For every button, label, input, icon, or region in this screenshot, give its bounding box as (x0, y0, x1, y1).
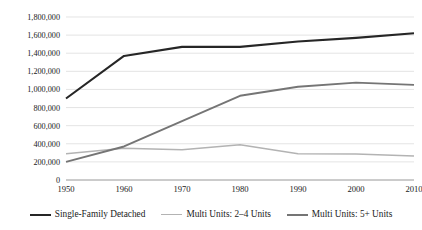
legend-line-swatch-icon (161, 214, 182, 215)
y-axis-tick-label: 1,400,000 (27, 49, 60, 58)
y-axis-tick-label: 1,200,000 (27, 67, 60, 76)
legend-line-swatch-icon (287, 214, 308, 216)
legend-item-label: Multi Units: 2–4 Units (186, 210, 270, 219)
y-axis-tick-labels: 0200,000400,000600,000800,0001,000,0001,… (27, 13, 60, 185)
chart-legend: Single-Family DetachedMulti Units: 2–4 U… (0, 198, 422, 230)
gridlines-group (66, 17, 414, 180)
line-chart-figure: 0200,000400,000600,000800,0001,000,0001,… (0, 0, 422, 230)
x-axis-tick-label: 1960 (115, 184, 132, 194)
series-line (66, 145, 414, 156)
y-axis-tick-label: 400,000 (33, 140, 60, 149)
y-axis-tick-label: 600,000 (33, 122, 60, 131)
series-line (66, 83, 414, 162)
y-axis-tick-label: 1,600,000 (27, 31, 60, 40)
series-line (66, 33, 414, 98)
x-axis-tick-labels: 1950196019701980199020002010 (57, 184, 422, 194)
y-axis-tick-label: 1,800,000 (27, 13, 60, 22)
x-axis-tick-label: 2010 (405, 184, 422, 194)
legend-item-label: Multi Units: 5+ Units (312, 210, 392, 219)
chart-plot-area: 0200,000400,000600,000800,0001,000,0001,… (0, 0, 422, 198)
x-axis-tick-label: 1950 (57, 184, 74, 194)
legend-item[interactable]: Multi Units: 2–4 Units (161, 210, 270, 219)
x-axis-tick-label: 1980 (231, 184, 248, 194)
y-axis-tick-label: 1,000,000 (27, 85, 60, 94)
x-axis-tick-label: 2000 (347, 184, 364, 194)
x-axis-tick-label: 1970 (173, 184, 190, 194)
legend-line-swatch-icon (30, 214, 51, 216)
legend-item[interactable]: Multi Units: 5+ Units (287, 210, 392, 219)
series-group (66, 33, 414, 162)
legend-item-label: Single-Family Detached (55, 210, 146, 219)
y-axis-tick-label: 200,000 (33, 158, 60, 167)
y-axis-tick-label: 800,000 (33, 104, 60, 113)
legend-item[interactable]: Single-Family Detached (30, 210, 146, 219)
x-axis-tick-label: 1990 (289, 184, 306, 194)
